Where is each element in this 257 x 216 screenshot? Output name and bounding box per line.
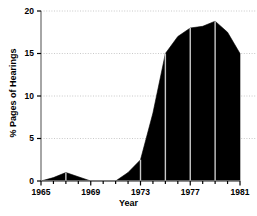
x-tick-label-1965: 1965 xyxy=(24,187,58,197)
x-axis-title: Year xyxy=(0,198,257,208)
y-axis-title: % Pages of Hearings xyxy=(8,28,18,158)
y-tick-label-0: 0 xyxy=(8,176,34,186)
chart-figure: 05101520 19651969197319771981 % Pages of… xyxy=(0,0,257,216)
y-tick-label-20: 20 xyxy=(8,6,34,16)
x-tick-label-1973: 1973 xyxy=(124,187,158,197)
chart-plot-area xyxy=(0,0,257,216)
x-tick-label-1981: 1981 xyxy=(223,187,257,197)
area-series-pages-of-hearings xyxy=(41,21,240,181)
x-tick-label-1977: 1977 xyxy=(173,187,207,197)
x-tick-label-1969: 1969 xyxy=(74,187,108,197)
